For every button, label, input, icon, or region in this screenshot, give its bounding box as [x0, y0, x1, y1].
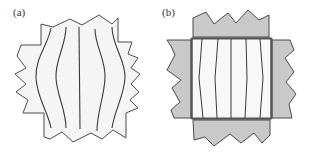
panel-b-clamp-right [272, 40, 296, 118]
panel-b-clamp-top [193, 10, 269, 37]
panel-b-clamp-left [167, 40, 191, 118]
panel-a [15, 15, 140, 142]
panel-b [167, 10, 296, 146]
panel-a-specimen-outline [15, 15, 140, 142]
figure-canvas [0, 0, 314, 156]
panel-b-clamp-bottom [193, 120, 270, 146]
